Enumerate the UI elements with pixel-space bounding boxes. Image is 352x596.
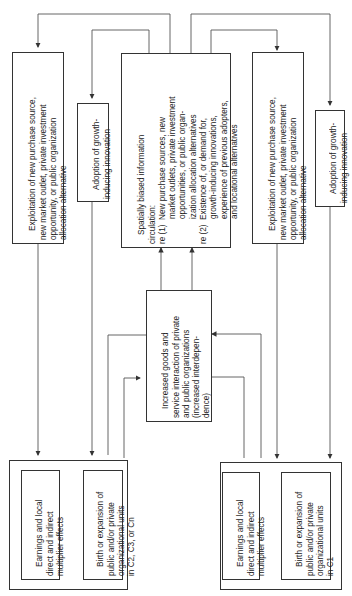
birth-left-label: Birth or expansion ofpublic and/or priva…	[86, 474, 148, 576]
diagram: Exploitation of new purchase source,new …	[0, 0, 352, 596]
spatial-info-label: Spatially biased informationcirculation:…	[127, 58, 251, 244]
exploitation-left-label: Exploitation of new purchase source,new …	[18, 58, 80, 240]
adoption-right-label: Adoption of growth-inducing innovation	[319, 113, 352, 203]
birth-right-label: Birth or expansion ofpublic and/or priva…	[285, 476, 347, 576]
interaction-label: Increased goods andservice interaction o…	[151, 294, 223, 418]
exploitation-right-label: Exploitation of new purchase source,new …	[258, 58, 320, 240]
adoption-left-label: Adoption of growth-inducing innovation	[82, 107, 123, 199]
earnings-left-label: Earnings and localdirect and indirectmul…	[25, 474, 76, 576]
earnings-right-label: Earnings and localdirect and indirectmul…	[226, 476, 277, 576]
